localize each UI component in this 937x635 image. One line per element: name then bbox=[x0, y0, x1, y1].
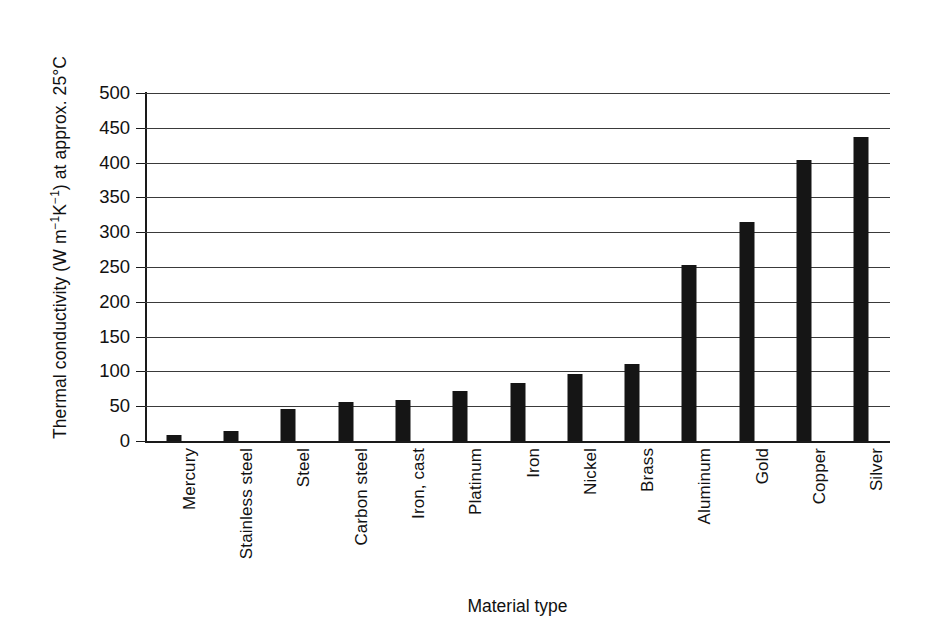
y-axis-tick-mark bbox=[136, 337, 145, 338]
x-axis-category-label: Iron bbox=[524, 448, 544, 478]
x-axis-title: Material type bbox=[145, 596, 890, 617]
x-axis-category-label: Iron, cast bbox=[409, 448, 429, 519]
y-axis-tick-label: 50 bbox=[60, 395, 130, 417]
x-axis-category-labels: MercuryStainless steelSteelCarbon steelI… bbox=[145, 448, 890, 598]
y-axis-tick-mark bbox=[136, 93, 145, 94]
y-axis-tick-mark bbox=[136, 441, 145, 442]
y-axis-tick-mark bbox=[136, 371, 145, 372]
x-axis-category-label: Copper bbox=[810, 448, 830, 504]
y-axis-tick-label: 500 bbox=[60, 82, 130, 104]
bar bbox=[625, 364, 640, 441]
plot-area bbox=[145, 93, 890, 441]
gridline bbox=[145, 232, 890, 233]
y-axis-tick-mark bbox=[136, 302, 145, 303]
gridline bbox=[145, 128, 890, 129]
x-axis-baseline bbox=[145, 441, 890, 443]
gridline bbox=[145, 267, 890, 268]
bar bbox=[854, 137, 869, 441]
y-axis-tick-mark bbox=[136, 267, 145, 268]
y-axis-tick-mark bbox=[136, 232, 145, 233]
gridline bbox=[145, 197, 890, 198]
gridline bbox=[145, 302, 890, 303]
y-axis-tick-mark bbox=[136, 197, 145, 198]
x-axis-category-label: Carbon steel bbox=[352, 448, 372, 546]
y-axis-tick-mark bbox=[136, 406, 145, 407]
y-axis-tick-label: 200 bbox=[60, 291, 130, 313]
y-axis-tick-labels: 050100150200250300350400450500 bbox=[56, 93, 130, 441]
x-axis-category-label: Platinum bbox=[466, 448, 486, 515]
y-axis-tick-label: 100 bbox=[60, 360, 130, 382]
bar bbox=[166, 435, 181, 441]
x-axis-category-label: Mercury bbox=[180, 448, 200, 510]
y-axis-tick-label: 350 bbox=[60, 186, 130, 208]
gridline bbox=[145, 337, 890, 338]
bar bbox=[739, 222, 754, 441]
bar bbox=[395, 400, 410, 441]
y-axis-tick-mark bbox=[136, 163, 145, 164]
x-axis-category-label: Aluminum bbox=[695, 448, 715, 524]
x-axis-category-label: Gold bbox=[753, 448, 773, 484]
bar-chart-figure: Thermal conductivity (W m−1K−1) at appro… bbox=[0, 0, 937, 635]
bar bbox=[682, 265, 697, 441]
y-axis-tick-label: 450 bbox=[60, 117, 130, 139]
x-axis-category-label: Brass bbox=[638, 448, 658, 492]
x-axis-category-label: Silver bbox=[867, 448, 887, 491]
gridline bbox=[145, 371, 890, 372]
bar bbox=[223, 431, 238, 441]
x-axis-category-label: Stainless steel bbox=[237, 448, 257, 559]
y-axis-tick-label: 400 bbox=[60, 152, 130, 174]
gridline bbox=[145, 163, 890, 164]
y-axis-tick-mark bbox=[136, 128, 145, 129]
y-axis-tick-label: 250 bbox=[60, 256, 130, 278]
x-axis-category-label: Nickel bbox=[581, 448, 601, 495]
bar bbox=[338, 402, 353, 441]
bar bbox=[510, 383, 525, 441]
gridline bbox=[145, 93, 890, 94]
x-axis-category-label: Steel bbox=[294, 448, 314, 487]
bar bbox=[797, 160, 812, 441]
y-axis-tick-label: 300 bbox=[60, 221, 130, 243]
y-axis-tick-label: 0 bbox=[60, 430, 130, 452]
bar bbox=[567, 374, 582, 441]
y-axis-tick-label: 150 bbox=[60, 326, 130, 348]
bar bbox=[453, 391, 468, 441]
bar bbox=[281, 409, 296, 441]
